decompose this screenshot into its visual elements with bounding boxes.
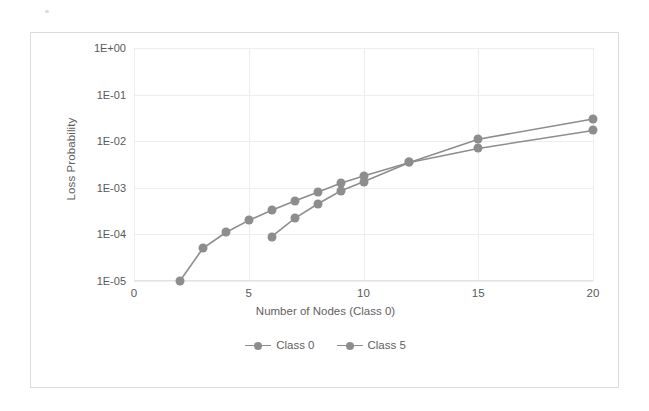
y-axis-tick-label: 1E-03 xyxy=(97,182,126,194)
data-point-marker xyxy=(267,232,276,241)
chart-legend: Class 0Class 5 xyxy=(31,339,620,351)
scan-artifact xyxy=(45,10,49,13)
data-point-marker xyxy=(359,177,368,186)
x-axis-title: Number of Nodes (Class 0) xyxy=(31,305,620,317)
chart-container: Loss Probability Number of Nodes (Class … xyxy=(30,32,619,388)
y-axis-tick-label: 1E-01 xyxy=(97,89,126,101)
legend-item[interactable]: Class 0 xyxy=(245,339,314,351)
data-point-marker xyxy=(290,214,299,223)
x-axis-tick-label: 5 xyxy=(246,287,252,299)
x-axis-tick-label: 0 xyxy=(131,287,137,299)
legend-marker-icon xyxy=(245,341,271,350)
gridline-horizontal xyxy=(134,281,593,282)
data-point-marker xyxy=(589,126,598,135)
data-point-marker xyxy=(267,206,276,215)
series-line-class-5 xyxy=(272,119,593,237)
data-point-marker xyxy=(474,135,483,144)
data-point-marker xyxy=(336,187,345,196)
y-axis-tick-label: 1E-02 xyxy=(97,135,126,147)
series-line-class-0 xyxy=(180,130,593,281)
plot-area xyxy=(134,48,593,281)
data-point-marker xyxy=(589,114,598,123)
data-point-marker xyxy=(175,277,184,286)
legend-item[interactable]: Class 5 xyxy=(337,339,406,351)
data-point-marker xyxy=(221,228,230,237)
data-point-marker xyxy=(198,244,207,253)
data-point-marker xyxy=(290,197,299,206)
legend-item-label: Class 5 xyxy=(368,339,406,351)
data-point-marker xyxy=(405,158,414,167)
y-axis-tick-label: 1E+00 xyxy=(94,42,126,54)
x-axis-tick-label: 10 xyxy=(357,287,370,299)
legend-marker-icon xyxy=(337,341,363,350)
chart-plot-wrapper: Loss Probability Number of Nodes (Class … xyxy=(31,33,620,389)
y-axis-tick-labels: 1E+001E-011E-021E-031E-041E-05 xyxy=(31,48,134,281)
data-point-marker xyxy=(474,144,483,153)
gridline-vertical xyxy=(593,48,594,281)
data-point-marker xyxy=(313,188,322,197)
y-axis-tick-label: 1E-05 xyxy=(97,275,126,287)
x-axis-tick-label: 15 xyxy=(472,287,485,299)
y-axis-tick-label: 1E-04 xyxy=(97,228,126,240)
x-axis-tick-label: 20 xyxy=(587,287,600,299)
data-point-marker xyxy=(313,199,322,208)
data-point-marker xyxy=(244,216,253,225)
legend-item-label: Class 0 xyxy=(276,339,314,351)
